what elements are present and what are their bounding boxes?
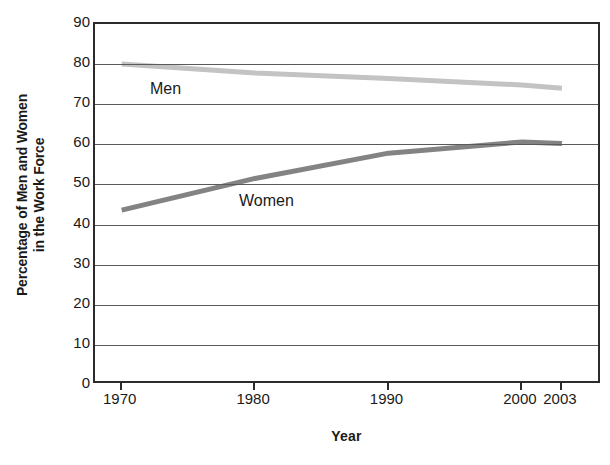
gridline — [95, 225, 598, 226]
x-axis-tick — [253, 383, 255, 390]
y-axis-tick-label: 40 — [56, 215, 90, 230]
gridline — [95, 144, 598, 145]
x-axis-tick-label: 1990 — [370, 391, 403, 407]
x-axis-title: Year — [93, 428, 600, 444]
series-label-men: Men — [150, 80, 181, 98]
x-axis-tick — [387, 383, 389, 390]
y-axis-tick-label: 30 — [56, 255, 90, 270]
chart-figure: Percentage of Men and Women in the Work … — [0, 0, 610, 465]
y-axis-tick-label: 20 — [56, 295, 90, 310]
x-axis-tick-label: 2003 — [543, 391, 576, 407]
gridline — [95, 305, 598, 306]
x-axis-tick — [560, 383, 562, 390]
gridline — [95, 184, 598, 185]
y-axis-tick-label: 60 — [56, 134, 90, 149]
gridline — [95, 265, 598, 266]
gridline — [95, 345, 598, 346]
x-axis-tick-label: 2000 — [503, 391, 536, 407]
series-label-women: Women — [239, 192, 294, 210]
plot-area — [93, 22, 600, 383]
y-axis-tick-label: 70 — [56, 94, 90, 109]
y-axis-tick-label: 50 — [56, 174, 90, 189]
x-axis-tick — [120, 383, 122, 390]
series-lines — [95, 24, 602, 385]
x-axis-tick — [520, 383, 522, 390]
y-axis-tick-label: 0 — [56, 375, 90, 390]
series-line-men — [122, 64, 562, 88]
y-axis-tick-label: 10 — [56, 335, 90, 350]
x-axis-tick-label: 1980 — [236, 391, 269, 407]
y-axis-tick-label: 80 — [56, 54, 90, 69]
y-axis-tick-label: 90 — [56, 14, 90, 29]
series-line-women — [122, 142, 562, 210]
gridline — [95, 64, 598, 65]
y-axis-tick-labels: 9080706050403020100 — [52, 0, 90, 465]
gridline — [95, 104, 598, 105]
y-axis-title-line1: Percentage of Men and Women — [14, 94, 31, 296]
x-axis-tick-label: 1970 — [103, 391, 136, 407]
y-axis-title-line2: in the Work Force — [31, 94, 48, 296]
